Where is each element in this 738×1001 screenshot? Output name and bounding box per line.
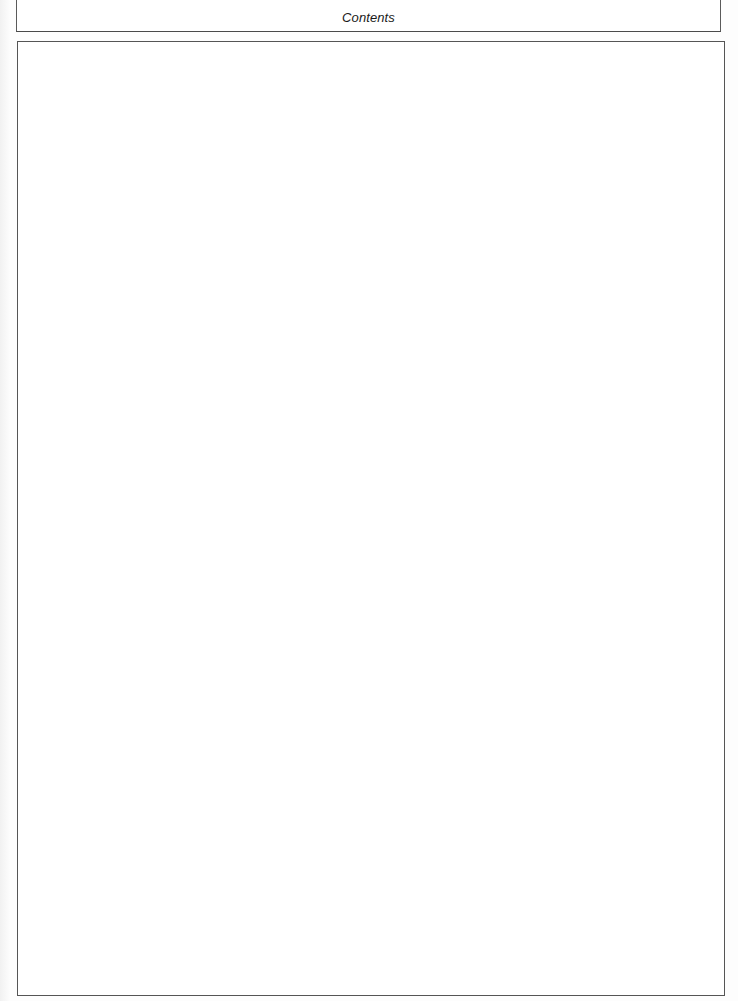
header-box: Contents [16, 0, 721, 32]
scan-margin-shade [0, 0, 10, 1001]
page-title: Contents [17, 10, 720, 25]
contents-body [18, 42, 724, 995]
contents-panel [17, 41, 725, 996]
